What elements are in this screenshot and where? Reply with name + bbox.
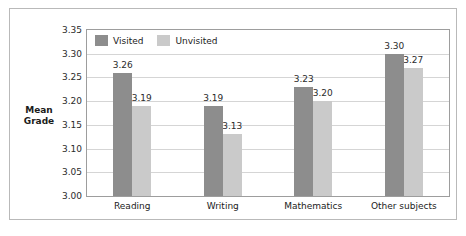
legend-item-unvisited[interactable]: Unvisited bbox=[157, 35, 217, 46]
bar-visited-writing[interactable] bbox=[204, 106, 223, 196]
bar-group bbox=[204, 30, 242, 196]
y-tick-label: 3.25 bbox=[54, 72, 82, 82]
y-tick-label: 3.35 bbox=[54, 25, 82, 35]
chart-legend: VisitedUnvisited bbox=[95, 35, 218, 46]
y-tick-label: 3.20 bbox=[54, 96, 82, 106]
legend-swatch-icon bbox=[95, 35, 108, 46]
legend-label: Visited bbox=[113, 36, 143, 46]
legend-swatch-icon bbox=[157, 35, 170, 46]
y-tick-label: 3.00 bbox=[54, 191, 82, 201]
legend-label: Unvisited bbox=[175, 36, 217, 46]
bar-unvisited-writing[interactable] bbox=[223, 134, 242, 196]
y-axis-ticks: 3.353.303.253.203.153.103.053.00 bbox=[54, 29, 82, 197]
bar-unvisited-mathematics[interactable] bbox=[313, 101, 332, 196]
bar-visited-reading[interactable] bbox=[113, 73, 132, 196]
y-tick-label: 3.30 bbox=[54, 49, 82, 59]
bar-unvisited-reading[interactable] bbox=[132, 106, 151, 196]
y-tick-label: 3.10 bbox=[54, 144, 82, 154]
bar-group bbox=[294, 30, 332, 196]
x-tick-label: Mathematics bbox=[284, 201, 342, 211]
plot-area: 3.263.193.193.133.233.203.303.27 Visited… bbox=[86, 29, 450, 197]
bar-group bbox=[113, 30, 151, 196]
legend-item-visited[interactable]: Visited bbox=[95, 35, 143, 46]
bar-group bbox=[385, 30, 423, 196]
y-tick-label: 3.05 bbox=[54, 167, 82, 177]
x-tick-label: Writing bbox=[207, 201, 239, 211]
bar-visited-other-subjects[interactable] bbox=[385, 54, 404, 196]
x-axis-labels: ReadingWritingMathematicsOther subjects bbox=[86, 201, 450, 217]
x-tick-label: Other subjects bbox=[371, 201, 437, 211]
plot-inner: 3.263.193.193.133.233.203.303.27 Visited… bbox=[87, 30, 449, 196]
y-tick-label: 3.15 bbox=[54, 120, 82, 130]
bar-visited-mathematics[interactable] bbox=[294, 87, 313, 196]
chart-figure: Mean Grade 3.353.303.253.203.153.103.053… bbox=[9, 8, 457, 220]
bar-unvisited-other-subjects[interactable] bbox=[404, 68, 423, 196]
x-tick-label: Reading bbox=[114, 201, 151, 211]
